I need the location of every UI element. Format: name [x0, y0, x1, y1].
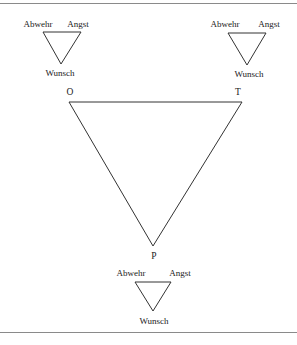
label-wunsch: Wunsch — [139, 316, 169, 326]
label-angst: Angst — [67, 19, 89, 29]
diagram-canvas: O T P Abwehr Angst Wunsch Abwehr Angst W… — [0, 0, 297, 345]
label-abwehr: Abwehr — [24, 19, 53, 29]
main-triangle — [69, 102, 242, 246]
triangle-shape — [43, 32, 81, 64]
small-triangle-top-right: Abwehr Angst Wunsch — [211, 19, 281, 79]
triangle-diagram: O T P Abwehr Angst Wunsch Abwehr Angst W… — [0, 0, 297, 345]
label-wunsch: Wunsch — [234, 69, 264, 79]
top-rule — [0, 3, 297, 4]
label-wunsch: Wunsch — [45, 68, 75, 78]
bottom-rule — [0, 332, 297, 333]
vertex-label-o: O — [67, 87, 74, 97]
label-angst: Angst — [258, 19, 280, 29]
small-triangle-bottom: Abwehr Angst Wunsch — [117, 268, 192, 326]
vertex-label-t: T — [235, 87, 241, 97]
triangle-shape — [228, 33, 266, 65]
triangle-shape — [135, 282, 171, 311]
label-angst: Angst — [169, 268, 191, 278]
label-abwehr: Abwehr — [117, 268, 146, 278]
small-triangle-top-left: Abwehr Angst Wunsch — [24, 19, 90, 78]
vertex-label-p: P — [151, 251, 156, 261]
label-abwehr: Abwehr — [211, 19, 240, 29]
